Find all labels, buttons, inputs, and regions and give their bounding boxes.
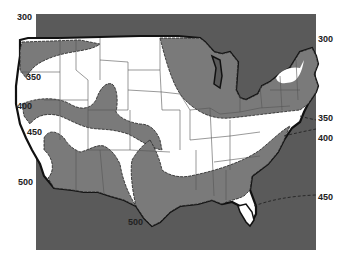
- contour-label-450-e: 450: [318, 192, 333, 202]
- contour-label-300-nw: 300: [17, 12, 32, 22]
- contour-label-450-w: 450: [27, 127, 42, 137]
- contour-label-300-ne: 300: [318, 34, 333, 44]
- contour-label-350-w: 350: [26, 72, 41, 82]
- contour-label-500-s: 500: [128, 217, 143, 227]
- us-contour-map: [0, 0, 346, 262]
- contour-label-500-w: 500: [18, 177, 33, 187]
- contour-label-400-w: 400: [17, 101, 32, 111]
- contour-label-400-e: 400: [318, 133, 333, 143]
- contour-label-350-e: 350: [318, 113, 333, 123]
